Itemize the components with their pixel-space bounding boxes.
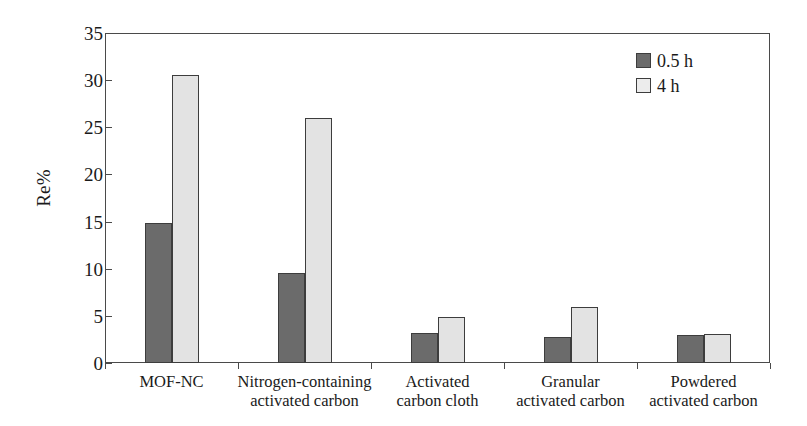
y-tick-label: 5 xyxy=(63,306,103,325)
bar xyxy=(571,307,598,363)
x-tick-mark xyxy=(637,363,638,369)
chart-legend: 0.5 h 4 h xyxy=(636,48,746,98)
bar xyxy=(438,317,465,363)
x-tick-mark xyxy=(504,363,505,369)
y-tick-mark xyxy=(105,316,112,317)
y-tick-label: 25 xyxy=(63,118,103,137)
bar xyxy=(172,75,199,363)
y-tick-mark xyxy=(105,80,112,81)
y-tick-label: 30 xyxy=(63,71,103,90)
y-tick-mark xyxy=(105,127,112,128)
dark-gray-swatch-icon xyxy=(636,53,651,68)
y-tick-label: 10 xyxy=(63,259,103,278)
x-category-label: Powdered activated carbon xyxy=(625,372,782,411)
x-tick-mark xyxy=(238,363,239,369)
bar-chart-figure: Re% 05101520253035 MOF-NCNitrogen-contai… xyxy=(0,0,807,426)
legend-item-1: 4 h xyxy=(636,73,746,98)
bar xyxy=(411,333,438,363)
bar xyxy=(145,223,172,363)
y-tick-mark xyxy=(105,174,112,175)
y-axis-title: Re% xyxy=(33,148,55,228)
x-tick-mark xyxy=(770,363,771,369)
y-axis-tick-labels: 05101520253035 xyxy=(55,0,103,426)
y-tick-label: 20 xyxy=(63,165,103,184)
y-tick-label: 15 xyxy=(63,212,103,231)
legend-item-0: 0.5 h xyxy=(636,48,746,73)
legend-label-0: 0.5 h xyxy=(657,52,693,70)
y-tick-label: 35 xyxy=(63,24,103,43)
y-tick-label: 0 xyxy=(63,354,103,373)
light-gray-swatch-icon xyxy=(636,78,651,93)
bar xyxy=(305,118,332,363)
bar xyxy=(677,335,704,363)
bar xyxy=(278,273,305,363)
bar xyxy=(704,334,731,363)
y-tick-mark xyxy=(105,269,112,270)
y-tick-mark xyxy=(105,363,112,364)
legend-label-1: 4 h xyxy=(657,77,680,95)
bar xyxy=(544,337,571,363)
x-tick-mark xyxy=(371,363,372,369)
y-tick-mark xyxy=(105,222,112,223)
